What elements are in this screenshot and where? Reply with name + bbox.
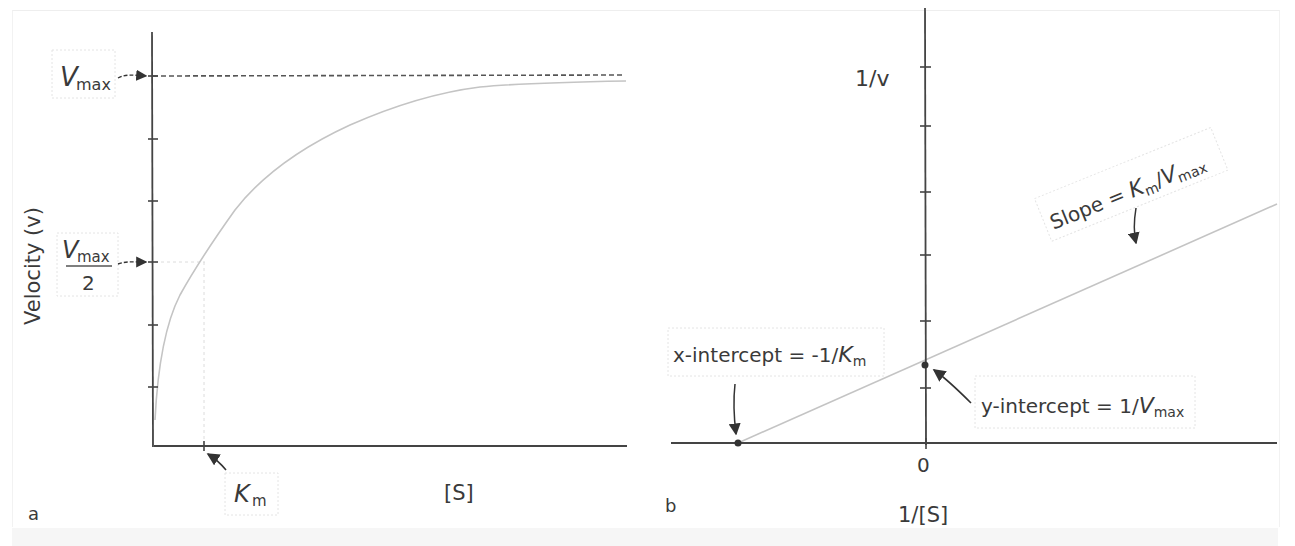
panel-a-y-axis-label: Velocity (v) xyxy=(21,207,45,325)
figure-svg: V max V max 2 K m Velocity (v) [S] a xyxy=(0,0,1295,546)
panel-b-y-axis-label: 1/v xyxy=(855,66,889,91)
panel-a-x-axis-label: [S] xyxy=(444,481,474,505)
panel-b-letter: b xyxy=(665,495,676,516)
panel-b-x-axis-label: 1/[S] xyxy=(898,503,948,527)
slope-arrow-icon xyxy=(1134,208,1136,243)
origin-label: 0 xyxy=(917,453,930,477)
vmax-label-sub: max xyxy=(76,75,111,94)
half-vmax-label-den: 2 xyxy=(82,271,95,295)
vmax-asymptote xyxy=(153,75,624,76)
panel-a: V max V max 2 K m Velocity (v) [S] a xyxy=(21,32,627,524)
figure: V max V max 2 K m Velocity (v) [S] a xyxy=(0,0,1295,546)
y-intercept-point xyxy=(922,362,929,369)
km-label-k: K xyxy=(234,480,252,508)
michaelis-menten-curve xyxy=(155,81,626,420)
x-intercept-label: x-intercept = -1/Km xyxy=(673,342,866,369)
km-label-sub: m xyxy=(252,492,267,510)
panel-a-y-axis xyxy=(152,32,153,447)
half-vmax-label-sub: max xyxy=(77,248,110,266)
vmax-arrow-icon xyxy=(118,75,146,78)
panel-b: 1/v 0 1/[S] b x-intercept = -1/Km y-inte… xyxy=(665,8,1277,527)
half-vmax-arrow-icon xyxy=(118,262,146,264)
y-intercept-arrow-icon xyxy=(934,370,971,403)
x-intercept-arrow-icon xyxy=(734,384,736,434)
x-intercept-point xyxy=(735,440,742,447)
panel-a-letter: a xyxy=(28,503,39,524)
panel-b-y-axis xyxy=(925,8,926,445)
slope-label-group: Slope = Km/Vmax xyxy=(1035,127,1228,241)
km-arrow-icon xyxy=(208,454,226,470)
